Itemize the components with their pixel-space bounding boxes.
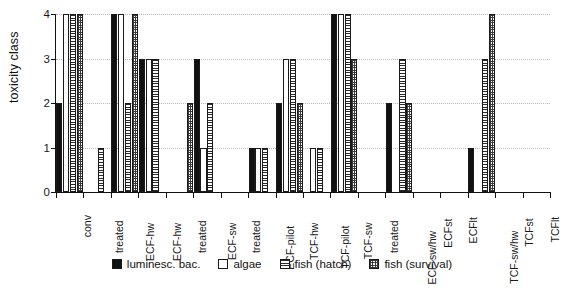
x-axis-tick (440, 192, 441, 198)
bar (297, 103, 303, 192)
y-axis-tick-label: 3 (44, 53, 50, 65)
bar (468, 148, 474, 193)
x-axis-tick-label: ECFlt (467, 217, 479, 243)
bar (310, 148, 316, 193)
bar (276, 103, 282, 192)
bar-group (330, 14, 357, 192)
bar (262, 148, 268, 193)
x-axis-tick-label: ECF-sw (226, 223, 238, 260)
x-axis-tick (56, 192, 57, 198)
bar (118, 14, 124, 192)
solid-black-swatch (112, 259, 122, 269)
y-axis-tick-label: 4 (44, 8, 50, 20)
x-axis-tick (221, 192, 222, 198)
x-axis-tick-label: treated (196, 220, 208, 253)
bar (132, 14, 138, 192)
bar (187, 103, 193, 192)
bar (152, 59, 158, 193)
x-axis-tick-label: treated (251, 220, 263, 253)
bar (255, 148, 261, 193)
crosshatch-swatch (369, 259, 379, 269)
bar-group (221, 14, 248, 192)
x-axis-tick (523, 192, 524, 198)
bar (207, 103, 213, 192)
bar (56, 103, 62, 192)
x-axis-tick-label: TCF-sw (363, 222, 375, 259)
legend-label: fish (hatch) (295, 258, 352, 270)
horizontal-hatch-swatch (280, 259, 290, 269)
white-swatch (218, 259, 228, 269)
bar-group (138, 14, 165, 192)
bar (406, 103, 412, 192)
bar (482, 59, 488, 193)
bar-group (440, 14, 467, 192)
bar (331, 14, 337, 192)
x-axis-tick (385, 192, 386, 198)
bar (386, 103, 392, 192)
bar-group (56, 14, 83, 192)
y-axis-tick-label: 0 (44, 186, 50, 198)
bar-group (495, 14, 522, 192)
legend-label: luminesc. bac. (127, 258, 201, 270)
legend-item: fish (hatch) (280, 258, 352, 270)
x-axis-tick (413, 192, 414, 198)
legend-label: fish (survival) (384, 258, 452, 270)
bar (249, 148, 255, 193)
bar (194, 59, 200, 193)
toxicity-class-bar-chart: toxicity class 01234 convtreatedECF-hwEC… (0, 0, 564, 292)
legend-item: luminesc. bac. (112, 258, 201, 270)
bar-group (276, 14, 303, 192)
bar-group (523, 14, 550, 192)
y-axis-title: toxicity class (7, 31, 21, 103)
legend-label: algae (233, 258, 261, 270)
x-axis-tick-label: treated (114, 220, 126, 253)
bar (338, 14, 344, 192)
x-axis-tick (248, 192, 249, 198)
x-axis-tick-label: ECF-hw (144, 223, 156, 261)
x-axis-tick (468, 192, 469, 198)
x-axis-tick-label: TCFst (523, 218, 535, 247)
x-axis-tick-label: TCF-hw (308, 223, 320, 260)
x-axis-tick-label: treated (388, 220, 400, 253)
legend-item: fish (survival) (369, 258, 452, 270)
x-axis-tick (166, 192, 167, 198)
bar (489, 14, 495, 192)
bar (98, 148, 104, 193)
x-axis-tick (358, 192, 359, 198)
bar (70, 14, 76, 192)
x-axis-tick (276, 192, 277, 198)
x-axis-tick (111, 192, 112, 198)
bar (63, 14, 69, 192)
bar-group (413, 14, 440, 192)
bar (317, 148, 323, 193)
x-axis-tick (550, 192, 551, 198)
bar (200, 148, 206, 193)
bar-group (193, 14, 220, 192)
bar (345, 14, 351, 192)
plot-area: 01234 convtreatedECF-hwECF-hwtreatedECF-… (55, 14, 550, 193)
bar (125, 103, 131, 192)
bar (77, 14, 83, 192)
x-axis-tick (138, 192, 139, 198)
bar-group (83, 14, 110, 192)
bar-group (248, 14, 275, 192)
bar (351, 59, 357, 193)
y-axis-tick-label: 2 (44, 97, 50, 109)
bar-group (111, 14, 138, 192)
y-axis-tick-label: 1 (44, 142, 50, 154)
bar-group (358, 14, 385, 192)
bar-group (468, 14, 495, 192)
bar (139, 59, 145, 193)
chart-legend: luminesc. bac.algaefish (hatch)fish (sur… (0, 258, 564, 270)
bar-group (166, 14, 193, 192)
bar (111, 14, 117, 192)
x-axis-tick-label: ECF-hw (171, 223, 183, 261)
bar (283, 59, 289, 193)
bar (290, 59, 296, 193)
bar-group (303, 14, 330, 192)
x-axis-tick-label: ECFst (441, 219, 453, 248)
x-axis-tick-label: conv (81, 215, 93, 237)
bar (146, 59, 152, 193)
x-axis-tick (303, 192, 304, 198)
x-axis-tick (193, 192, 194, 198)
